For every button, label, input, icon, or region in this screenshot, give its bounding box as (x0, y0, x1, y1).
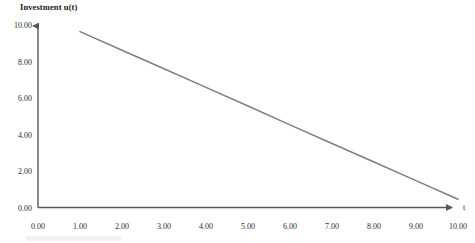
chart-plot-area (0, 0, 475, 243)
x-tick-label: 7.00 (325, 222, 339, 231)
x-tick-label: 6.00 (283, 222, 297, 231)
y-tick-label: 4.00 (2, 130, 32, 139)
x-tick-label: 10.00 (449, 222, 467, 231)
page-artifact (26, 236, 122, 241)
data-series-line (80, 32, 458, 200)
y-tick-label: 8.00 (2, 57, 32, 66)
y-tick-label: 10.00 (2, 21, 32, 30)
y-tick-label: 2.00 (2, 167, 32, 176)
x-tick-label: 9.00 (409, 222, 423, 231)
y-tick-label: 6.00 (2, 94, 32, 103)
x-tick-label: 1.00 (73, 222, 87, 231)
x-tick-label: 3.00 (157, 222, 171, 231)
x-tick-label: 0.00 (31, 222, 45, 231)
x-tick-label: 5.00 (241, 222, 255, 231)
x-tick-label: 8.00 (367, 222, 381, 231)
x-axis-title: t (463, 203, 465, 212)
y-tick-label: 0.00 (2, 203, 32, 212)
chart-container: Investment u(t) 10.00 8.00 6.00 4.00 2.0… (0, 0, 475, 243)
x-tick-label: 4.00 (199, 222, 213, 231)
x-tick-label: 2.00 (115, 222, 129, 231)
